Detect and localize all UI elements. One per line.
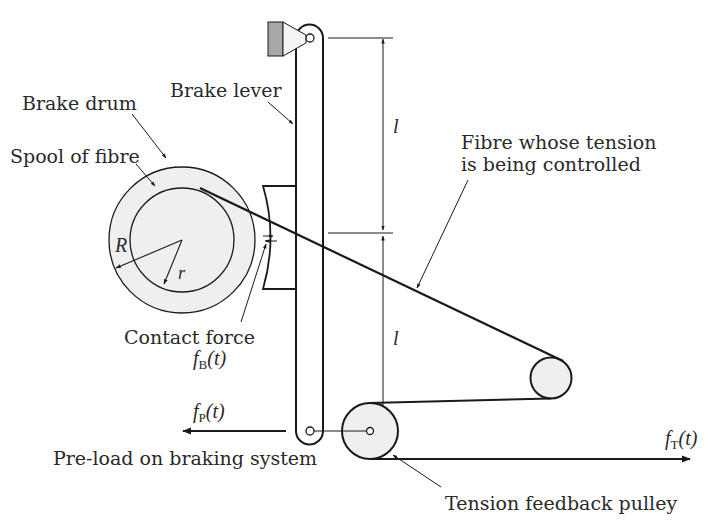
symbol-l-lower: l xyxy=(393,327,399,349)
label-spool-of-fibre: Spool of fibre xyxy=(10,145,140,167)
label-brake-drum: Brake drum xyxy=(22,92,137,114)
label-tension-feedback-pulley: Tension feedback pulley xyxy=(445,492,677,514)
label-fibre-line2: is being controlled xyxy=(461,153,641,175)
dimension-lines xyxy=(328,38,393,432)
symbol-fB: fB(t) xyxy=(193,347,226,372)
idler-pulley xyxy=(531,358,572,399)
symbol-l-upper: l xyxy=(393,115,399,137)
symbol-fP: fP(t) xyxy=(193,400,225,425)
bottom-pivot-icon xyxy=(306,427,314,435)
label-fibre-line1: Fibre whose tension xyxy=(461,131,656,153)
label-contact-force: Contact force xyxy=(124,326,255,348)
label-preload: Pre-load on braking system xyxy=(53,447,317,469)
brake-pad xyxy=(263,186,296,289)
top-pivot-icon xyxy=(306,34,314,42)
symbol-R: R xyxy=(114,234,127,256)
symbol-r: r xyxy=(178,263,186,283)
symbol-fT: fT(t) xyxy=(665,427,698,452)
label-brake-lever: Brake lever xyxy=(170,79,282,101)
brake-tension-diagram: Brake drum Spool of fibre Brake lever Fi… xyxy=(0,0,716,530)
pulley-axle-icon xyxy=(367,428,374,435)
